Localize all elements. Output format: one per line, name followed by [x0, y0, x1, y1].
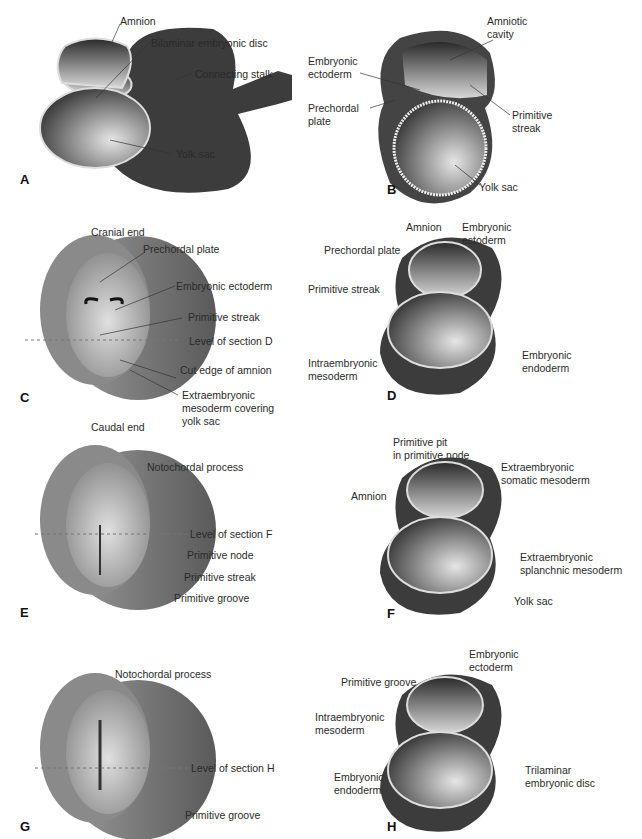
panel-letter-d: D: [387, 388, 396, 403]
panel-f-illustration: [380, 458, 502, 615]
label-h-trilaminar-disc: Trilaminar embryonic disc: [525, 764, 595, 790]
label-h-embryonic-ectoderm: Embryonic ectoderm: [469, 648, 519, 674]
label-b-yolk-sac: Yolk sac: [479, 181, 518, 194]
label-a-amnion: Amnion: [120, 15, 156, 28]
label-f-somatic-mesoderm: Extraembryonic somatic mesoderm: [501, 461, 590, 487]
label-d-amnion: Amnion: [406, 221, 442, 234]
label-g-notochordal-process: Notochordal process: [115, 668, 211, 681]
label-f-yolk-sac: Yolk sac: [514, 595, 553, 608]
label-e-primitive-streak: Primitive streak: [184, 571, 256, 584]
label-d-intraembryonic-mesoderm: Intraembryonic mesoderm: [308, 357, 377, 383]
panel-letter-g: G: [20, 819, 30, 834]
label-d-embryonic-endoderm: Embryonic endoderm: [522, 349, 572, 375]
panel-letter-e: E: [20, 605, 29, 620]
label-d-embryonic-ectoderm: Embryonic ectoderm: [462, 221, 512, 247]
panel-letter-a: A: [20, 172, 29, 187]
label-e-primitive-node: Primitive node: [187, 549, 254, 562]
label-e-level-section-f: Level of section F: [190, 528, 272, 541]
label-b-embryonic-ectoderm: Embryonic ectoderm: [308, 55, 358, 81]
label-g-level-section-h: Level of section H: [191, 762, 274, 775]
label-c-caudal-end: Caudal end: [91, 421, 145, 434]
panel-letter-b: B: [387, 182, 396, 197]
panel-h-illustration: [380, 675, 502, 832]
panel-letter-h: H: [387, 819, 396, 834]
label-a-yolk-sac: Yolk sac: [176, 148, 215, 161]
label-c-cut-edge-amnion: Cut edge of amnion: [180, 364, 272, 377]
label-g-primitive-groove: Primitive groove: [185, 809, 260, 822]
label-d-primitive-streak: Primitive streak: [308, 283, 380, 296]
panel-letter-c: C: [20, 390, 29, 405]
label-f-splanchnic-mesoderm: Extraembryonic splanchnic mesoderm: [520, 551, 622, 577]
panel-letter-f: F: [387, 606, 395, 621]
label-c-primitive-streak: Primitive streak: [188, 311, 260, 324]
label-e-primitive-groove: Primitive groove: [174, 592, 249, 605]
label-h-intraembryonic-mesoderm: Intraembryonic mesoderm: [315, 711, 384, 737]
label-f-primitive-pit: Primitive pit in primitive node: [393, 436, 469, 462]
label-h-embryonic-endoderm: Embryonic endoderm: [334, 771, 384, 797]
label-d-prechordal-plate: Prechordal plate: [324, 244, 400, 257]
label-b-primitive-streak: Primitive streak: [512, 109, 552, 135]
label-e-notochordal-process: Notochordal process: [147, 461, 243, 474]
label-b-prechordal-plate: Prechordal plate: [308, 102, 359, 128]
panel-b-illustration: [378, 31, 495, 204]
label-c-prechordal-plate: Prechordal plate: [143, 243, 219, 256]
label-c-embryonic-ectoderm: Embryonic ectoderm: [176, 280, 272, 293]
label-b-amniotic-cavity: Amniotic cavity: [487, 15, 527, 41]
label-h-primitive-groove: Primitive groove: [341, 676, 416, 689]
label-f-amnion: Amnion: [351, 490, 387, 503]
label-a-bilaminar-disc: Bilaminar embryonic disc: [151, 37, 268, 50]
panel-a-illustration: [40, 28, 292, 193]
label-c-extraembryonic-mesoderm: Extraembryonic mesoderm covering yolk sa…: [182, 389, 274, 428]
label-c-cranial-end: Cranial end: [91, 226, 145, 239]
label-a-connecting-stalk: Connecting stalk: [195, 68, 273, 81]
panel-d-illustration: [380, 238, 502, 395]
label-c-level-section-d: Level of section D: [189, 335, 272, 348]
